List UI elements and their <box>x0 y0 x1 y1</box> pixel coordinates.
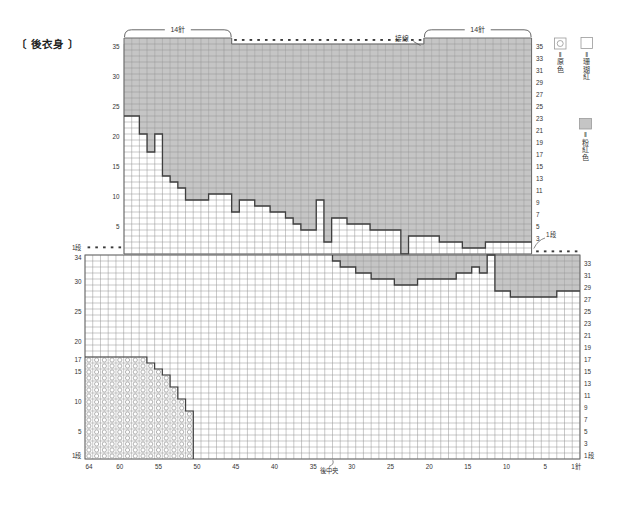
stitch-ring <box>87 370 91 374</box>
stitch-ring <box>180 406 184 410</box>
stitch-ring <box>125 394 129 398</box>
bind-off-dot <box>319 39 322 41</box>
stitch-ring <box>118 424 122 428</box>
stitch-ring <box>164 430 168 434</box>
stitch-ring <box>164 448 168 452</box>
stitch-ring <box>149 364 153 368</box>
stitch-ring <box>164 412 168 416</box>
stitch-ring <box>133 436 137 440</box>
stitch-ring <box>149 400 153 404</box>
stitch-ring <box>95 370 99 374</box>
axis-label: 25 <box>112 103 120 110</box>
stitch-ring <box>141 430 145 434</box>
stitch-ring <box>141 436 145 440</box>
stitch-ring <box>102 376 106 380</box>
stitch-ring <box>172 448 176 452</box>
stitch-ring <box>164 418 168 422</box>
stitch-ring <box>87 442 91 446</box>
stitch-ring <box>133 358 137 362</box>
stitch-ring <box>164 376 168 380</box>
axis-label: 15 <box>74 368 82 375</box>
bind-off-dot <box>103 246 106 248</box>
axis-label: 5 <box>536 223 540 230</box>
stitch-ring <box>110 418 114 422</box>
stitch-ring <box>156 430 160 434</box>
stitch-ring <box>164 436 168 440</box>
bind-off-dot <box>119 246 122 248</box>
axis-label: 13 <box>584 380 592 387</box>
stitch-ring <box>87 424 91 428</box>
stitch-ring <box>110 454 114 458</box>
lower-grid <box>85 255 580 459</box>
axis-label: 20 <box>112 133 120 140</box>
stitch-ring <box>187 436 191 440</box>
stitch-ring <box>172 412 176 416</box>
stitch-ring <box>149 412 153 416</box>
stitch-ring <box>164 424 168 428</box>
stitch-ring <box>125 358 129 362</box>
stitch-ring <box>172 406 176 410</box>
axis-label: 33 <box>584 260 592 267</box>
stitch-ring <box>87 382 91 386</box>
stitch-ring <box>180 424 184 428</box>
axis-label: 7 <box>584 416 588 423</box>
stitch-ring <box>180 454 184 458</box>
stitch-ring <box>125 388 129 392</box>
stitch-ring <box>133 400 137 404</box>
join-line-label: 接線 <box>395 34 409 43</box>
stitch-ring <box>118 436 122 440</box>
stitch-ring <box>156 442 160 446</box>
stitch-ring <box>102 382 106 386</box>
bind-off-dot <box>250 39 253 41</box>
stitch-ring <box>110 448 114 452</box>
knitting-chart-page: 〔 後衣身 〕 14針14針接線353025201510535333129272… <box>0 0 625 507</box>
stitch-ring <box>125 448 129 452</box>
stitch-ring <box>118 430 122 434</box>
stitch-ring <box>156 436 160 440</box>
stitch-ring <box>125 430 129 434</box>
axis-label: 20 <box>74 338 82 345</box>
stitch-ring <box>102 436 106 440</box>
stitch-ring <box>149 442 153 446</box>
stitch-ring <box>164 382 168 386</box>
stitch-ring <box>95 454 99 458</box>
bind-off-dot <box>411 39 414 41</box>
stitch-ring <box>187 430 191 434</box>
axis-label: 25 <box>536 103 544 110</box>
axis-label: 13 <box>536 175 544 182</box>
stitch-ring <box>95 400 99 404</box>
axis-label: 11 <box>584 392 591 399</box>
stitch-ring <box>110 400 114 404</box>
stitch-ring <box>125 442 129 446</box>
axis-label: 15 <box>584 368 592 375</box>
stitch-ring <box>95 358 99 362</box>
stitch-ring <box>172 454 176 458</box>
axis-label: 11 <box>536 187 543 194</box>
row1-label: 1段 <box>584 451 595 460</box>
stitch-ring <box>133 418 137 422</box>
stitch-ring <box>125 454 129 458</box>
stitch-ring <box>102 388 106 392</box>
stitch-ring <box>125 370 129 374</box>
bind-off-dot <box>280 39 283 41</box>
stitch-ring <box>118 358 122 362</box>
stitch-ring <box>125 412 129 416</box>
legend-text: ‖ <box>585 51 588 58</box>
stitch-ring <box>149 418 153 422</box>
stitch-ring <box>172 388 176 392</box>
stitch-ring <box>102 412 106 416</box>
stitch-ring <box>110 442 114 446</box>
legend-text: 紅 <box>582 145 589 153</box>
stitch-ring <box>180 430 184 434</box>
stitch-ring <box>149 370 153 374</box>
stitch-ring <box>102 448 106 452</box>
legend-swatch-coral <box>581 38 593 49</box>
stitch-ring <box>102 454 106 458</box>
stitch-ring <box>95 430 99 434</box>
stitch-ring <box>95 448 99 452</box>
axis-label: 27 <box>536 91 544 98</box>
bind-off-dot <box>575 250 578 252</box>
stitch-ring <box>118 454 122 458</box>
bind-off-dot <box>552 250 555 252</box>
stitch-ring <box>180 412 184 416</box>
